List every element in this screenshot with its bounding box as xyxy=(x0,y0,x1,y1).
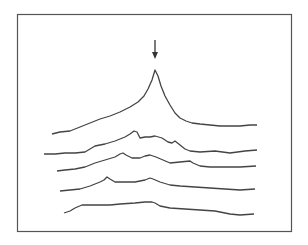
trace-line-4 xyxy=(60,177,255,191)
trace-line-1 xyxy=(52,70,257,134)
waterfall-chart xyxy=(0,0,308,245)
trace-group xyxy=(44,70,257,215)
trace-line-5 xyxy=(64,202,254,215)
arrow-head-icon xyxy=(152,52,158,59)
trace-line-3 xyxy=(57,153,256,171)
trace-line-2 xyxy=(44,131,257,154)
arrow-marker xyxy=(152,40,158,59)
